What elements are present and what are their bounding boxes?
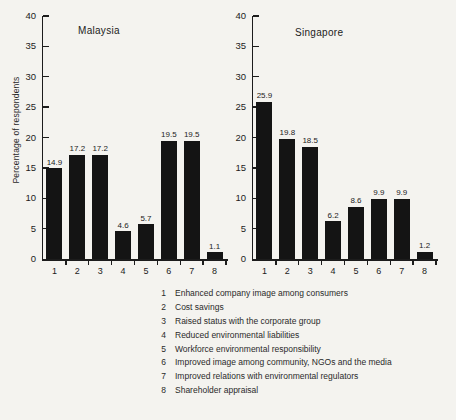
y-tick-label: 35 bbox=[219, 40, 246, 52]
legend-item-label: Improved image among community, NGOs and… bbox=[175, 357, 392, 367]
x-category-label: 8 bbox=[203, 265, 226, 277]
bar-value-label: 25.9 bbox=[246, 90, 283, 101]
y-tick-label: 0 bbox=[9, 253, 36, 265]
x-category-label: 8 bbox=[413, 265, 436, 277]
x-axis-tick bbox=[321, 259, 322, 265]
x-category-label: 3 bbox=[299, 265, 322, 277]
y-tick-label: 40 bbox=[219, 10, 246, 22]
bar-value-label: 18.5 bbox=[292, 135, 329, 146]
y-tick-label: 5 bbox=[9, 223, 36, 235]
y-tick-label: 10 bbox=[219, 192, 246, 204]
x-axis-tick bbox=[65, 259, 66, 265]
legend-item-label: Workforce environmental responsibility bbox=[175, 344, 321, 354]
x-axis-tick bbox=[134, 259, 135, 265]
x-axis-tick bbox=[180, 259, 181, 265]
x-axis-tick bbox=[435, 259, 436, 265]
legend-item: 3Raised status with the corporate group bbox=[157, 316, 392, 330]
y-axis-tick bbox=[253, 46, 259, 47]
y-tick-label: 30 bbox=[219, 71, 246, 83]
y-axis-tick bbox=[43, 137, 49, 138]
x-axis-tick bbox=[367, 259, 368, 265]
x-category-label: 1 bbox=[43, 265, 66, 277]
chart-title: Malaysia bbox=[78, 25, 120, 36]
x-category-label: 6 bbox=[367, 265, 390, 277]
y-tick-label: 20 bbox=[219, 132, 246, 144]
x-axis-tick bbox=[275, 259, 276, 265]
legend-item: 1Enhanced company image among consumers bbox=[157, 288, 392, 302]
legend-item-number: 3 bbox=[157, 316, 166, 326]
bar-value-label: 14.9 bbox=[36, 157, 73, 168]
legend-item-number: 2 bbox=[157, 302, 166, 312]
x-category-label: 6 bbox=[157, 265, 180, 277]
x-category-label: 2 bbox=[66, 265, 89, 277]
bar-value-label: 19.5 bbox=[173, 129, 210, 140]
x-category-label: 4 bbox=[112, 265, 135, 277]
bar-value-label: 5.7 bbox=[128, 213, 165, 224]
legend-item: 2Cost savings bbox=[157, 302, 392, 316]
legend-item: 8Shareholder appraisal bbox=[157, 385, 392, 399]
legend-item: 7Improved relations with environmental r… bbox=[157, 371, 392, 385]
y-tick-label: 10 bbox=[9, 192, 36, 204]
x-axis-tick bbox=[88, 259, 89, 265]
legend-item-label: Improved relations with environmental re… bbox=[175, 371, 358, 381]
legend-item-number: 7 bbox=[157, 371, 166, 381]
legend-item-label: Reduced environmental liabilities bbox=[175, 330, 299, 340]
x-axis-tick bbox=[412, 259, 413, 265]
y-tick-label: 15 bbox=[219, 162, 246, 174]
x-category-label: 7 bbox=[180, 265, 203, 277]
bar bbox=[325, 221, 341, 259]
y-tick-label: 25 bbox=[9, 101, 36, 113]
legend-item-number: 8 bbox=[157, 385, 166, 395]
legend-item-number: 4 bbox=[157, 330, 166, 340]
bar bbox=[46, 168, 62, 259]
category-legend: 1Enhanced company image among consumers2… bbox=[157, 288, 392, 399]
y-tick-label: 0 bbox=[219, 253, 246, 265]
x-axis-tick bbox=[111, 259, 112, 265]
y-axis-tick bbox=[43, 15, 49, 16]
bar bbox=[417, 252, 433, 259]
y-axis-tick bbox=[253, 15, 259, 16]
bar-value-label: 6.2 bbox=[315, 210, 352, 221]
bar bbox=[371, 199, 387, 259]
legend-item-label: Enhanced company image among consumers bbox=[175, 288, 348, 298]
chart-malaysia: 051015202530354014.9117.2217.234.645.751… bbox=[43, 16, 243, 301]
bar-value-label: 1.1 bbox=[196, 241, 233, 252]
y-tick-label: 25 bbox=[219, 101, 246, 113]
bar bbox=[279, 139, 295, 259]
x-category-label: 5 bbox=[345, 265, 368, 277]
x-axis-tick bbox=[157, 259, 158, 265]
y-tick-label: 40 bbox=[9, 10, 36, 22]
y-tick-label: 5 bbox=[219, 223, 246, 235]
bar bbox=[302, 147, 318, 259]
x-category-label: 3 bbox=[89, 265, 112, 277]
y-tick-label: 15 bbox=[9, 162, 36, 174]
y-tick-label: 20 bbox=[9, 132, 36, 144]
legend-item-number: 6 bbox=[157, 357, 166, 367]
x-axis-tick bbox=[390, 259, 391, 265]
y-tick-label: 30 bbox=[9, 71, 36, 83]
y-axis-tick bbox=[43, 46, 49, 47]
bar bbox=[161, 141, 177, 259]
bar-value-label: 17.2 bbox=[82, 143, 119, 154]
bar-value-label: 1.2 bbox=[406, 240, 443, 251]
x-category-label: 4 bbox=[322, 265, 345, 277]
bar-value-label: 9.9 bbox=[383, 187, 420, 198]
legend-item-label: Raised status with the corporate group bbox=[175, 316, 321, 326]
y-axis-tick bbox=[43, 76, 49, 77]
y-axis-line bbox=[252, 16, 254, 261]
y-axis-line bbox=[42, 16, 44, 261]
y-axis-tick bbox=[43, 106, 49, 107]
x-axis-tick bbox=[344, 259, 345, 265]
legend-item-number: 1 bbox=[157, 288, 166, 298]
legend-item: 4Reduced environmental liabilities bbox=[157, 330, 392, 344]
chart-title: Singapore bbox=[295, 27, 343, 38]
x-category-label: 1 bbox=[253, 265, 276, 277]
legend-item-label: Cost savings bbox=[175, 302, 224, 312]
legend-item-number: 5 bbox=[157, 344, 166, 354]
x-category-label: 5 bbox=[135, 265, 158, 277]
bar bbox=[256, 102, 272, 259]
x-axis-tick bbox=[202, 259, 203, 265]
x-category-label: 7 bbox=[390, 265, 413, 277]
x-axis-tick bbox=[298, 259, 299, 265]
x-category-label: 2 bbox=[276, 265, 299, 277]
